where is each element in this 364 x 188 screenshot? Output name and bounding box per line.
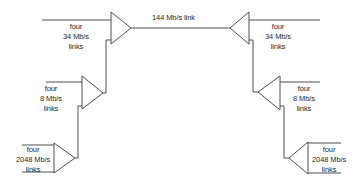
left-8-label-line2: 8 Mb/s <box>40 94 62 104</box>
right-8-label-line3: links <box>293 104 315 114</box>
right-2048-label-line3: links <box>312 165 346 175</box>
left-2048-label-line1: four <box>16 145 50 155</box>
right-8-label: four 8 Mb/s links <box>293 84 315 114</box>
demux-34-to-8-icon <box>258 76 280 110</box>
main-link-label-text: 144 Mb/s link <box>152 13 195 23</box>
left-2048-to-8-connector <box>75 106 82 158</box>
right-8-to-2048-connector <box>280 106 289 158</box>
left-2048-label: four 2048 Mb/s links <box>16 145 50 175</box>
multiplex-hierarchy-diagram: 144 Mb/s link four 34 Mb/s links four 8 … <box>0 0 364 188</box>
right-34-label-line3: links <box>265 42 291 52</box>
left-8-label-line1: four <box>40 84 62 94</box>
right-34-label-line2: 34 Mb/s <box>265 32 291 42</box>
mux-34-to-144-icon <box>111 12 131 44</box>
main-link-label: 144 Mb/s link <box>152 13 195 23</box>
right-8-label-line1: four <box>293 84 315 94</box>
right-34-to-8-connector <box>249 40 258 92</box>
left-8-label-line3: links <box>40 104 62 114</box>
mux-2048-to-8-icon <box>54 143 75 173</box>
left-8-to-34-connector <box>103 40 111 93</box>
left-34-label-line1: four <box>63 22 89 32</box>
demux-144-to-34-icon <box>230 12 249 44</box>
left-2048-label-line3: links <box>16 165 50 175</box>
right-34-label: four 34 Mb/s links <box>265 22 291 52</box>
left-8-label: four 8 Mb/s links <box>40 84 62 114</box>
right-8-label-line2: 8 Mb/s <box>293 94 315 104</box>
right-2048-label-line1: four <box>312 145 346 155</box>
left-34-label-line3: links <box>63 42 89 52</box>
right-34-label-line1: four <box>265 22 291 32</box>
right-2048-label-line2: 2048 Mb/s <box>312 155 346 165</box>
right-2048-label: four 2048 Mb/s links <box>312 145 346 175</box>
left-34-label: four 34 Mb/s links <box>63 22 89 52</box>
left-34-label-line2: 34 Mb/s <box>63 32 89 42</box>
left-2048-label-line2: 2048 Mb/s <box>16 155 50 165</box>
demux-8-to-2048-icon <box>289 142 308 174</box>
mux-8-to-34-icon <box>82 76 103 109</box>
